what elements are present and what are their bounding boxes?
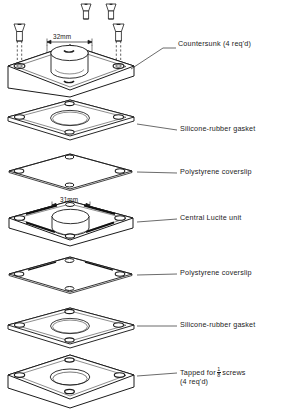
countersunk-hole xyxy=(64,81,74,83)
layer-coverslip-bottom xyxy=(9,257,132,294)
leader-countersunk xyxy=(131,48,176,69)
label-tapped-text-after: screws xyxy=(222,368,245,377)
exploded-assembly-diagram xyxy=(0,0,281,416)
corner-hole xyxy=(65,287,74,291)
corner-hole xyxy=(14,216,24,221)
leader-lines xyxy=(131,48,177,376)
layer-gasket-bottom xyxy=(8,308,134,348)
corner-hole xyxy=(65,130,74,134)
label-gasket-top: Silicone-rubber gasket xyxy=(180,125,255,134)
corner-hole xyxy=(14,272,24,276)
dimension-32mm-label: 32mm xyxy=(53,33,71,40)
label-tapped-text-line2: (4 req'd) xyxy=(180,377,208,386)
corner-hole xyxy=(65,338,74,342)
corner-hole xyxy=(65,234,74,238)
tapped-hole xyxy=(65,389,75,393)
leader-coverslip-bottom xyxy=(137,274,177,275)
label-tapped-text-before: Tapped for xyxy=(180,368,216,377)
corner-hole xyxy=(65,155,74,159)
corner-hole xyxy=(114,323,124,327)
corner-hole xyxy=(114,115,124,119)
layer-central-lucite xyxy=(9,201,133,246)
corner-hole xyxy=(65,309,74,313)
leader-central-lucite xyxy=(137,219,177,222)
corner-hole xyxy=(15,323,25,327)
corner-hole xyxy=(65,259,74,263)
leader-tapped xyxy=(137,373,177,376)
fraction-one-eighth: 18 xyxy=(217,367,221,377)
layer-coverslip-top xyxy=(9,154,132,191)
corner-hole xyxy=(15,115,25,119)
label-countersunk: Countersunk (4 req'd) xyxy=(178,40,251,49)
label-tapped: Tapped for18screws (4 req'd) xyxy=(180,367,246,386)
layer-base-plate xyxy=(8,355,134,408)
tapped-hole xyxy=(65,358,74,362)
fraction-denominator: 8 xyxy=(217,373,221,378)
countersunk-hole xyxy=(113,64,124,69)
tapped-hole xyxy=(114,373,124,378)
corner-hole xyxy=(65,183,74,187)
screw-back-left xyxy=(81,4,91,19)
screw-front-left xyxy=(14,24,25,63)
countersunk-hole xyxy=(14,64,25,69)
corner-hole xyxy=(14,169,24,173)
screw-back-right xyxy=(106,4,116,19)
label-central-lucite: Central Lucite unit xyxy=(180,214,241,223)
screw-front-right xyxy=(113,24,124,60)
layer-top-plate xyxy=(8,45,134,97)
corner-hole xyxy=(115,216,125,221)
countersunk-hole xyxy=(64,51,74,53)
label-gasket-bottom: Silicone-rubber gasket xyxy=(180,321,255,330)
dimension-31mm-label: 31mm xyxy=(60,196,78,203)
leader-gasket-top xyxy=(137,124,177,130)
layer-gasket-top xyxy=(8,100,134,140)
corner-hole xyxy=(115,272,125,276)
corner-hole xyxy=(115,169,125,173)
label-coverslip-bottom: Polystyrene coverslip xyxy=(180,269,252,278)
corner-hole xyxy=(66,203,75,207)
label-coverslip-top: Polystyrene coverslip xyxy=(180,168,252,177)
leader-coverslip-top xyxy=(137,172,177,173)
tapped-hole xyxy=(14,373,24,378)
corner-hole xyxy=(65,101,74,105)
